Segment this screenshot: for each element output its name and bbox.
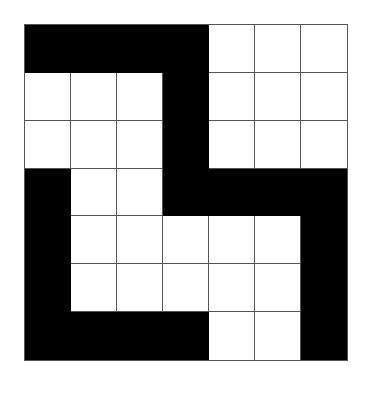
empty-cell bbox=[255, 312, 301, 360]
empty-cell bbox=[255, 121, 301, 169]
empty-cell bbox=[117, 169, 163, 217]
empty-cell bbox=[209, 216, 255, 264]
empty-cell bbox=[71, 264, 117, 312]
filled-cell bbox=[71, 25, 117, 73]
empty-cell bbox=[255, 264, 301, 312]
empty-cell bbox=[301, 73, 347, 121]
filled-cell bbox=[163, 25, 209, 73]
filled-cell bbox=[255, 169, 301, 217]
filled-cell bbox=[301, 312, 347, 360]
empty-cell bbox=[117, 121, 163, 169]
filled-cell bbox=[25, 312, 71, 360]
filled-cell bbox=[25, 216, 71, 264]
empty-cell bbox=[163, 264, 209, 312]
empty-cell bbox=[255, 25, 301, 73]
empty-cell bbox=[71, 216, 117, 264]
filled-cell bbox=[163, 73, 209, 121]
empty-cell bbox=[255, 216, 301, 264]
empty-cell bbox=[209, 312, 255, 360]
empty-cell bbox=[71, 73, 117, 121]
filled-cell bbox=[71, 312, 117, 360]
empty-cell bbox=[117, 216, 163, 264]
empty-cell bbox=[255, 73, 301, 121]
filled-cell bbox=[163, 312, 209, 360]
filled-cell bbox=[209, 169, 255, 217]
empty-cell bbox=[209, 121, 255, 169]
empty-cell bbox=[163, 216, 209, 264]
filled-cell bbox=[301, 216, 347, 264]
filled-cell bbox=[117, 312, 163, 360]
filled-cell bbox=[301, 169, 347, 217]
filled-cell bbox=[163, 169, 209, 217]
empty-cell bbox=[301, 121, 347, 169]
filled-cell bbox=[25, 25, 71, 73]
empty-cell bbox=[209, 264, 255, 312]
empty-cell bbox=[117, 264, 163, 312]
pattern-grid bbox=[24, 24, 348, 361]
empty-cell bbox=[71, 169, 117, 217]
filled-cell bbox=[301, 264, 347, 312]
empty-cell bbox=[71, 121, 117, 169]
filled-cell bbox=[25, 169, 71, 217]
empty-cell bbox=[301, 25, 347, 73]
empty-cell bbox=[117, 73, 163, 121]
empty-cell bbox=[209, 25, 255, 73]
empty-cell bbox=[25, 121, 71, 169]
filled-cell bbox=[163, 121, 209, 169]
empty-cell bbox=[25, 73, 71, 121]
filled-cell bbox=[117, 25, 163, 73]
filled-cell bbox=[25, 264, 71, 312]
empty-cell bbox=[209, 73, 255, 121]
